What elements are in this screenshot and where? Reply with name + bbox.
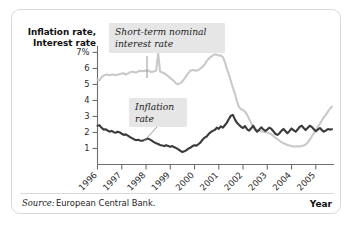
y-tick-label: 5 [84,79,89,89]
x-tick-label: 2000 [174,170,196,193]
y-tick-group: 7%654321 [76,47,97,153]
x-tick-label: 1999 [149,170,171,193]
source-prefix: Source: [22,198,55,208]
chart-figure-panel: Inflation rate, Interest rate 7%654321 1… [11,9,341,214]
plot-stage: Inflation rate, Interest rate 7%654321 1… [12,10,342,215]
y-tick-label: 1 [84,143,89,153]
x-axis-title: Year [309,199,333,209]
x-tick-label: 2002 [222,170,244,193]
callout-inflation-rate: Inflation rate [129,98,187,127]
x-tick-label: 2001 [198,170,220,193]
y-axis-title-line1: Inflation rate, [28,27,96,37]
source-text: European Central Bank. [56,198,155,208]
x-tick-group: 1996199719981999200020012002200320042005 [77,165,318,193]
callout-short-term-nominal-interest-rate: Short-term nominal interest rate [109,23,225,53]
x-tick-label: 2003 [246,170,268,193]
callout-interest-line1: Short-term nominal [115,26,207,37]
y-tick-label: 7% [76,47,89,57]
x-tick-label: 2005 [295,170,317,193]
y-tick-label: 3 [84,111,89,121]
callout-interest-line2: interest rate [115,38,174,49]
callout-leader-inflation [144,126,158,141]
chart-canvas: Inflation rate, Interest rate 7%654321 1… [12,10,342,215]
callout-inflation-line2: rate [135,113,155,124]
y-tick-label: 4 [84,95,89,105]
y-tick-label: 6 [84,63,89,73]
x-tick-label: 1997 [101,170,123,193]
callout-inflation-line1: Inflation [134,101,174,112]
y-tick-label: 2 [84,127,89,137]
x-tick-label: 1998 [125,170,147,193]
x-tick-label: 2004 [271,170,293,193]
x-tick-label: 1996 [77,170,99,193]
